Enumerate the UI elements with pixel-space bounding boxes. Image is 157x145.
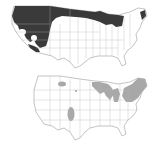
bottom-us-map-svg xyxy=(0,72,157,145)
shaded-region-montana xyxy=(58,82,66,87)
shaded-region-northeast xyxy=(122,78,147,102)
shaded-region-colorado xyxy=(68,107,75,121)
top-us-map-svg xyxy=(0,0,157,72)
shaded-region-wyoming-dot xyxy=(75,90,77,92)
top-us-map xyxy=(0,0,157,72)
bottom-us-map xyxy=(0,72,157,145)
